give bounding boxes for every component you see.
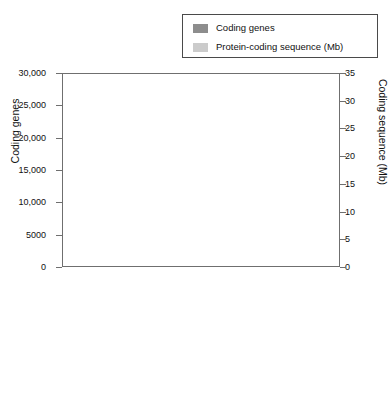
chart-figure: Coding genes Protein-coding sequence (Mb… bbox=[0, 0, 391, 393]
y-axis-right-tickmark bbox=[340, 212, 346, 213]
y-axis-left-tickmark bbox=[56, 267, 62, 268]
legend-item-protein-coding-sequence: Protein-coding sequence (Mb) bbox=[193, 38, 377, 56]
y-axis-right-tick-25: 25 bbox=[345, 124, 369, 133]
y-axis-left-tick-15000: 15,000 bbox=[0, 166, 46, 175]
y-axis-left-tick-30000: 30,000 bbox=[0, 69, 46, 78]
y-axis-right-tick-20: 20 bbox=[345, 152, 369, 161]
y-axis-right-tick-5: 5 bbox=[345, 235, 369, 244]
y-axis-right-tickmark bbox=[340, 73, 346, 74]
legend-item-coding-genes: Coding genes bbox=[193, 19, 377, 37]
y-axis-right-tickmark bbox=[340, 239, 346, 240]
y-axis-right-title: Coding sequence (Mb) bbox=[377, 67, 389, 197]
y-axis-left-tick-0: 0 bbox=[0, 263, 46, 272]
y-axis-right-tickmark bbox=[340, 184, 346, 185]
legend-swatch-protein-coding-sequence bbox=[193, 43, 208, 52]
y-axis-right-tick-10: 10 bbox=[345, 208, 369, 217]
legend-label-coding-genes: Coding genes bbox=[216, 23, 275, 33]
bars-container bbox=[63, 74, 339, 266]
y-axis-right-tickmark bbox=[340, 128, 346, 129]
y-axis-right-tickmark bbox=[340, 267, 346, 268]
y-axis-left-tick-20000: 20,000 bbox=[0, 134, 46, 143]
y-axis-right-tickmark bbox=[340, 156, 346, 157]
y-axis-left-tick-10000: 10,000 bbox=[0, 198, 46, 207]
y-axis-right-tickmark bbox=[340, 101, 346, 102]
y-axis-right-tick-15: 15 bbox=[345, 180, 369, 189]
y-axis-left-tick-25000: 25,000 bbox=[0, 101, 46, 110]
y-axis-right-tick-0: 0 bbox=[345, 263, 369, 272]
y-axis-right-tick-30: 30 bbox=[345, 97, 369, 106]
chart-legend: Coding genes Protein-coding sequence (Mb… bbox=[182, 14, 378, 58]
y-axis-left-tick-5000: 5000 bbox=[0, 231, 46, 240]
legend-label-protein-coding-sequence: Protein-coding sequence (Mb) bbox=[216, 42, 343, 52]
plot-area bbox=[62, 73, 340, 267]
legend-swatch-coding-genes bbox=[193, 24, 208, 33]
y-axis-right-tick-35: 35 bbox=[345, 69, 369, 78]
